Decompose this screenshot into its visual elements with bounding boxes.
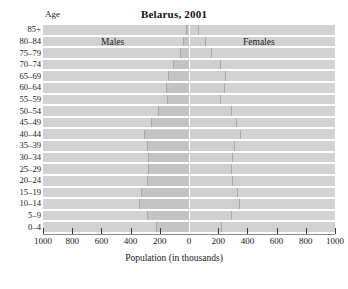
- x-axis-title: Population (in thousands): [0, 253, 348, 263]
- bar-edge-female-55-59: [220, 95, 221, 105]
- plot-area: Males Females: [43, 25, 335, 234]
- bar-male-25-29: [148, 164, 189, 174]
- x-tick-400-3: [131, 228, 132, 234]
- bar-female-65-69: [189, 71, 225, 81]
- age-tick-label-85+: 85+: [1, 25, 41, 34]
- bar-male-30-34: [148, 153, 189, 163]
- age-tick-label-15-19: 15–19: [1, 188, 41, 197]
- bar-female-60-64: [189, 83, 224, 93]
- age-tick-label-45-49: 45–49: [1, 118, 41, 127]
- bar-male-55-59: [167, 95, 189, 105]
- bar-male-45-49: [151, 118, 189, 128]
- bar-edge-female-40-44: [240, 130, 241, 140]
- x-tick-1000-0: [43, 228, 44, 234]
- bar-female-15-19: [189, 188, 237, 198]
- bar-edge-male-55-59: [167, 95, 168, 105]
- age-tick-label-0-4: 0–4: [1, 223, 41, 232]
- bar-edge-female-65-69: [225, 71, 226, 81]
- bar-male-10-14: [139, 199, 189, 209]
- bar-male-20-24: [147, 176, 189, 186]
- bar-edge-male-20-24: [147, 176, 148, 186]
- age-tick-label-60-64: 60–64: [1, 83, 41, 92]
- x-tick-200-6: [218, 228, 219, 234]
- bar-male-15-19: [141, 188, 189, 198]
- age-tick-label-35-39: 35–39: [1, 141, 41, 150]
- bar-female-45-49: [189, 118, 236, 128]
- bar-edge-female-30-34: [232, 153, 233, 163]
- bar-female-5-9: [189, 211, 231, 221]
- population-pyramid-chart: Belarus, 2001 Age 85+80–8475–7970–7465–6…: [0, 0, 348, 289]
- bar-edge-female-70-74: [220, 60, 221, 70]
- age-tick-label-column: 85+80–8475–7970–7465–6960–6455–5950–5445…: [0, 25, 41, 234]
- bar-female-55-59: [189, 95, 220, 105]
- bar-edge-female-80-84: [205, 37, 206, 47]
- age-tick-label-65-69: 65–69: [1, 72, 41, 81]
- bar-edge-female-85+: [198, 25, 199, 35]
- age-tick-label-50-54: 50–54: [1, 107, 41, 116]
- bar-edge-female-50-54: [231, 106, 232, 116]
- bar-edge-female-5-9: [231, 211, 232, 221]
- bar-edge-female-10-14: [239, 199, 240, 209]
- bar-edge-male-10-14: [139, 199, 140, 209]
- bar-female-35-39: [189, 141, 234, 151]
- bar-male-70-74: [173, 60, 189, 70]
- bar-male-65-69: [168, 71, 189, 81]
- bar-edge-male-75-79: [180, 48, 181, 58]
- bar-female-20-24: [189, 176, 232, 186]
- bar-female-80-84: [189, 37, 205, 47]
- bar-edge-male-85+: [186, 25, 187, 35]
- bar-edge-female-20-24: [232, 176, 233, 186]
- x-tick-400-7: [247, 228, 248, 234]
- females-series-label: Females: [243, 37, 275, 47]
- x-tick-1000-10: [335, 228, 336, 234]
- bar-edge-male-25-29: [148, 164, 149, 174]
- bar-male-75-79: [180, 48, 189, 58]
- bar-edge-male-70-74: [173, 60, 174, 70]
- bar-female-40-44: [189, 130, 240, 140]
- bar-edge-female-60-64: [224, 83, 225, 93]
- x-tick-600-8: [277, 228, 278, 234]
- bar-male-0-4: [156, 222, 189, 232]
- bar-female-75-79: [189, 48, 211, 58]
- bar-edge-female-35-39: [234, 141, 235, 151]
- bar-female-50-54: [189, 106, 231, 116]
- bar-edge-female-25-29: [231, 164, 232, 174]
- age-tick-label-10-14: 10–14: [1, 199, 41, 208]
- bar-edge-male-80-84: [183, 37, 184, 47]
- bar-edge-male-65-69: [168, 71, 169, 81]
- bar-edge-male-60-64: [166, 83, 167, 93]
- bar-female-0-4: [189, 222, 221, 232]
- age-axis-title: Age: [24, 9, 60, 19]
- bar-edge-male-45-49: [151, 118, 152, 128]
- age-tick-label-75-79: 75–79: [1, 49, 41, 58]
- x-tick-600-2: [101, 228, 102, 234]
- x-tick-label-1000-10: 1000: [315, 236, 348, 246]
- bar-edge-male-15-19: [141, 188, 142, 198]
- x-tick-800-9: [306, 228, 307, 234]
- bar-female-85+: [189, 25, 198, 35]
- bar-male-35-39: [147, 141, 189, 151]
- bar-edge-female-45-49: [236, 118, 237, 128]
- x-axis-line: [43, 234, 335, 235]
- x-tick-800-1: [72, 228, 73, 234]
- bar-male-40-44: [144, 130, 189, 140]
- age-tick-label-40-44: 40–44: [1, 130, 41, 139]
- age-tick-label-55-59: 55–59: [1, 95, 41, 104]
- bar-edge-male-0-4: [156, 222, 157, 232]
- bar-female-30-34: [189, 153, 232, 163]
- age-tick-label-70-74: 70–74: [1, 60, 41, 69]
- age-tick-label-25-29: 25–29: [1, 165, 41, 174]
- age-tick-label-5-9: 5–9: [1, 211, 41, 220]
- bar-edge-female-75-79: [211, 48, 212, 58]
- bar-female-10-14: [189, 199, 239, 209]
- bar-female-70-74: [189, 60, 220, 70]
- center-axis-line: [189, 25, 190, 234]
- age-tick-label-20-24: 20–24: [1, 176, 41, 185]
- bar-edge-male-35-39: [147, 141, 148, 151]
- bar-edge-male-5-9: [147, 211, 148, 221]
- bar-edge-male-50-54: [158, 106, 159, 116]
- males-series-label: Males: [101, 37, 124, 47]
- bar-female-25-29: [189, 164, 231, 174]
- bar-edge-female-0-4: [221, 222, 222, 232]
- age-tick-label-80-84: 80–84: [1, 37, 41, 46]
